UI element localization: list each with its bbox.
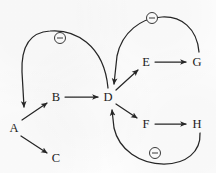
diagram-canvas: A B C D E F G H bbox=[0, 0, 216, 173]
node-h: H bbox=[192, 118, 201, 131]
node-b: B bbox=[52, 91, 60, 104]
edge-d-to-a-negative bbox=[22, 31, 108, 107]
edge-g-to-d-negative bbox=[114, 17, 199, 84]
edge-a-to-b bbox=[22, 103, 47, 120]
node-g: G bbox=[192, 56, 201, 69]
edge-d-to-f bbox=[116, 104, 137, 118]
node-c: C bbox=[52, 152, 60, 165]
negative-sign-icon-d-to-a bbox=[54, 32, 66, 44]
node-e: E bbox=[142, 56, 150, 69]
node-a: A bbox=[9, 122, 18, 135]
negative-sign-icon-h-to-d bbox=[149, 147, 161, 159]
graph-svg bbox=[0, 0, 216, 173]
negative-sign-icon-g-to-d bbox=[146, 12, 158, 24]
node-f: F bbox=[143, 118, 150, 131]
edge-a-to-c bbox=[21, 136, 47, 153]
edge-d-to-e bbox=[116, 70, 138, 90]
node-d: D bbox=[103, 91, 112, 104]
